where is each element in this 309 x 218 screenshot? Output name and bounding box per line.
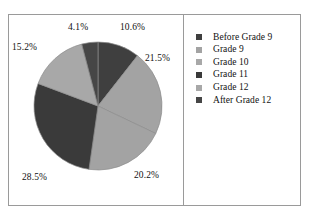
legend-item-label: After Grade 12 bbox=[213, 96, 271, 106]
pie-data-label: 28.5% bbox=[22, 172, 47, 182]
pie-data-label: 20.2% bbox=[134, 170, 159, 180]
pie-svg bbox=[33, 41, 163, 171]
legend-swatch-icon bbox=[196, 34, 202, 40]
legend-swatch-icon bbox=[196, 97, 202, 103]
plot-legend-divider bbox=[183, 14, 184, 206]
legend-item-label: Grade 10 bbox=[213, 58, 248, 68]
legend-swatch-icon bbox=[196, 47, 202, 53]
legend-item[interactable]: Before Grade 9 bbox=[196, 31, 302, 44]
legend-item-label: Grade 9 bbox=[213, 45, 244, 55]
legend-item-label: Before Grade 9 bbox=[213, 33, 272, 43]
legend-item-label: Grade 11 bbox=[213, 70, 248, 80]
pie-chart-figure: 10.6%21.5%20.2%28.5%15.2%4.1% Before Gra… bbox=[0, 0, 309, 218]
legend-swatch-icon bbox=[196, 59, 202, 65]
pie-data-label: 21.5% bbox=[145, 53, 170, 63]
legend-item[interactable]: Grade 9 bbox=[196, 44, 302, 57]
pie-slice-group bbox=[34, 42, 162, 170]
plot-area: 10.6%21.5%20.2%28.5%15.2%4.1% bbox=[9, 15, 183, 206]
legend-item-label: Grade 12 bbox=[213, 83, 248, 93]
legend-item[interactable]: Grade 10 bbox=[196, 56, 302, 69]
legend-swatch-icon bbox=[196, 72, 202, 78]
legend-item[interactable]: Grade 12 bbox=[196, 81, 302, 94]
legend-item[interactable]: Grade 11 bbox=[196, 69, 302, 82]
pie-data-label: 10.6% bbox=[120, 22, 145, 32]
pie-graphic bbox=[33, 41, 163, 171]
pie-data-label: 4.1% bbox=[68, 22, 88, 32]
legend-item[interactable]: After Grade 12 bbox=[196, 94, 302, 107]
pie-data-label: 15.2% bbox=[12, 42, 37, 52]
chart-legend: Before Grade 9Grade 9Grade 10Grade 11Gra… bbox=[196, 31, 302, 107]
legend-swatch-icon bbox=[196, 85, 202, 91]
